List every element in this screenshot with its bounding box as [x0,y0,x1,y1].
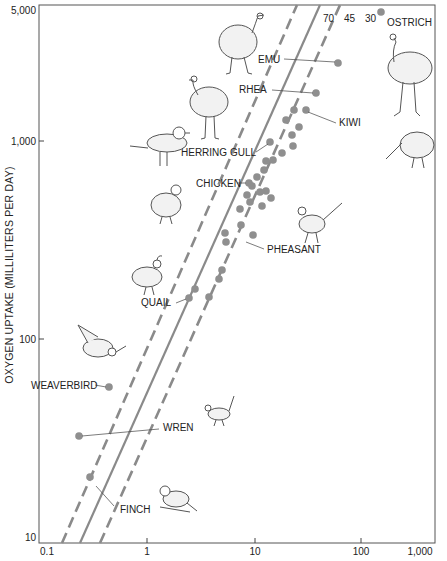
y-axis-title: OXYGEN UPTAKE (MILLILITERS PER DAY) [3,166,15,383]
y-tick-5000: 5,000 [11,5,36,16]
point-finch [86,473,94,481]
rhea-illustration [189,76,228,139]
pheasant-illustration [298,203,342,243]
x-tick-100: 100 [353,546,370,557]
x-tick-1: 1 [144,546,150,557]
label-ostrich: OSTRICH [387,17,432,28]
oxygen-conductance-chart: 5,000 1,000 100 10 OXYGEN UPTAKE (MILLIL… [0,0,447,561]
point-wren [75,432,83,440]
label-herring-gull: HERRING GULL [181,147,256,158]
weaverbird-illustration [78,325,126,357]
label-pheasant: PHEASANT [267,244,321,255]
herring-gull-illustration [130,127,190,166]
point-ostrich [377,8,385,16]
label-wren: WREN [163,422,194,433]
label-kiwi: KIWI [339,117,361,128]
line-30-label: 30 [365,13,377,24]
point-weaverbird [105,383,113,391]
point-quail [185,294,193,302]
quail-illustration [132,256,162,295]
x-tick-10: 10 [249,546,261,557]
label-finch: FINCH [120,504,151,515]
ostrich-illustration [388,34,432,116]
wren-illustration [205,396,234,426]
label-chicken: CHICKEN [196,178,241,189]
line-45 [80,5,320,543]
label-emu: EMU [258,54,280,65]
data-points [191,106,303,301]
line-45-label: 45 [344,13,356,24]
kiwi-illustration [386,132,434,168]
x-axis: 0.1 1 10 100 1,000 [40,538,433,557]
y-axis: 5,000 1,000 100 10 OXYGEN UPTAKE (MILLIL… [3,5,44,543]
label-quail: QUAIL [141,297,171,308]
point-kiwi [302,106,310,114]
y-tick-100: 100 [19,334,36,345]
point-emu [334,59,342,67]
point-rhea [312,89,320,97]
y-tick-10: 10 [25,532,37,543]
x-tick-0.1: 0.1 [40,546,54,557]
reference-lines: 70 45 30 [62,5,377,543]
point-chicken [245,179,253,187]
line-70-label: 70 [323,13,335,24]
chicken-illustration [151,185,181,224]
y-tick-1000: 1,000 [11,136,36,147]
label-rhea: RHEA [239,84,267,95]
finch-illustration [160,486,197,512]
x-tick-1000: 1,000 [407,546,432,557]
labeled-points: OSTRICH EMU RHEA KIWI HERRING GULL CHICK… [31,8,432,515]
label-weaverbird: WEAVERBIRD [31,380,98,391]
